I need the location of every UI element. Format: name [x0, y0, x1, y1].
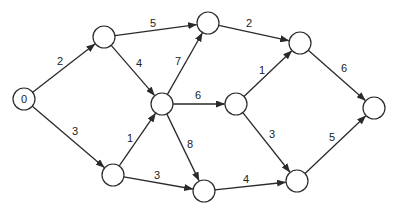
edge-weight-label: 4 [243, 173, 249, 185]
edge-weight-label: 3 [154, 169, 160, 181]
edge-arrow-n9-n6 [305, 116, 366, 174]
node-circle [363, 97, 385, 119]
graph-node-n7 [102, 164, 124, 186]
edge-arrow-n2-n5 [219, 25, 289, 40]
node-circle [93, 26, 115, 48]
graph-node-n8 [193, 180, 215, 202]
node-circle [151, 93, 173, 115]
edge-arrow-n4-n9 [243, 113, 290, 172]
graph-node-n3 [151, 93, 173, 115]
node-circle [289, 32, 311, 54]
edge-weight-label: 5 [150, 17, 156, 29]
edge-arrow-n0-n7 [32, 106, 104, 167]
edge-arrow-n3-n2 [167, 33, 202, 94]
edge-weight-label: 6 [195, 89, 201, 101]
node-label: 0 [21, 93, 27, 105]
edge-arrow-n7-n3 [119, 113, 155, 165]
edge-weight-label: 1 [127, 132, 133, 144]
graph-node-n9 [286, 170, 308, 192]
edge-weight-label: 4 [136, 57, 142, 69]
edge-weight-label: 7 [175, 55, 181, 67]
graph-node-n2 [197, 12, 219, 34]
edge-arrow-n1-n3 [111, 45, 154, 95]
edge-arrow-n3-n8 [167, 114, 199, 181]
node-circle [102, 164, 124, 186]
graph-node-n4 [225, 93, 247, 115]
edge-weight-label: 2 [57, 55, 63, 67]
node-circle [193, 180, 215, 202]
node-circle [225, 93, 247, 115]
node-circle [197, 12, 219, 34]
edge-arrow-n8-n9 [215, 182, 286, 190]
edge-weight-label: 3 [269, 128, 275, 140]
edge-weight-label: 3 [72, 125, 78, 137]
edge-arrow-n0-n1 [33, 44, 95, 92]
edge-weight-label: 5 [329, 131, 335, 143]
graph-node-n5 [289, 32, 311, 54]
edges-layer [32, 25, 365, 190]
node-circle [286, 170, 308, 192]
edge-arrow-n4-n5 [244, 51, 292, 96]
nodes-layer: 0 [13, 12, 385, 202]
graph-node-n6 [363, 97, 385, 119]
edge-weight-label: 6 [341, 62, 347, 74]
graph-node-n0: 0 [13, 88, 35, 110]
graph-node-n1 [93, 26, 115, 48]
edge-weight-label: 2 [246, 17, 252, 29]
edge-arrow-n5-n6 [308, 50, 365, 100]
directed-graph-diagram: 0 235413768213465 [0, 0, 397, 210]
edge-weight-label: 1 [259, 64, 265, 76]
edge-weight-label: 8 [187, 138, 193, 150]
